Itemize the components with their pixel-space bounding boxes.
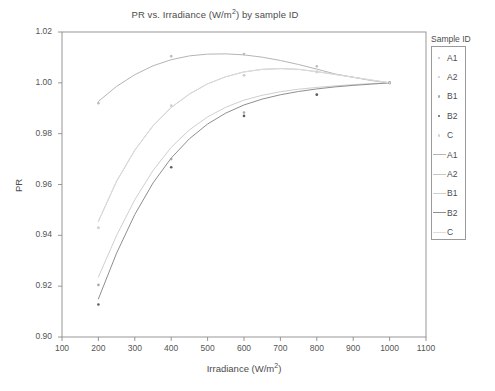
series-line-a1: [98, 54, 389, 102]
legend-entry-line-a1[interactable]: A1: [433, 145, 466, 164]
series-line-a2: [98, 69, 389, 222]
plot-canvas: [0, 0, 495, 391]
dot-icon: [438, 76, 440, 78]
y-tick-label: 0.94: [18, 230, 52, 239]
x-tick-label: 600: [224, 344, 264, 353]
x-tick-label: 400: [151, 344, 191, 353]
y-tick-label: 0.90: [18, 332, 52, 341]
x-tick-label: 200: [78, 344, 118, 353]
legend-title: Sample ID: [431, 34, 471, 44]
line-icon: [433, 232, 446, 233]
legend-entry-label: A2: [446, 169, 457, 179]
data-point-b1: [170, 158, 173, 161]
legend-entry-line-b2[interactable]: B2: [433, 203, 466, 222]
legend-entry-point-b1[interactable]: B1: [433, 87, 466, 106]
legend-line-icon: [433, 207, 446, 219]
data-point-b1: [243, 111, 246, 114]
x-tick-label: 800: [297, 344, 337, 353]
x-axis-label: Irradiance (W/m2): [62, 362, 426, 374]
data-point-b2: [97, 303, 100, 306]
line-icon: [433, 174, 446, 175]
y-tick-label: 0.92: [18, 281, 52, 290]
legend-entry-label: B2: [446, 111, 457, 121]
data-point-a1: [243, 53, 246, 56]
legend-entry-line-c[interactable]: C: [433, 223, 466, 242]
dot-icon: [438, 95, 440, 97]
x-tick-label: 300: [115, 344, 155, 353]
line-icon: [433, 193, 446, 194]
series-line-c: [98, 69, 389, 222]
legend-entry-label: A1: [446, 53, 457, 63]
legend-entry-point-b2[interactable]: B2: [433, 106, 466, 125]
dot-icon: [438, 115, 440, 117]
x-tick-label: 1000: [370, 344, 410, 353]
chart-figure: PR vs. Irradiance (W/m2) by sample ID 0.…: [0, 0, 495, 391]
data-point-b2: [316, 93, 319, 96]
series-points-group: [97, 53, 391, 306]
data-point-a1: [97, 102, 100, 105]
legend-entry-point-c[interactable]: C: [433, 126, 466, 145]
y-tick-label: 1.02: [18, 27, 52, 36]
y-tick-label: 0.98: [18, 129, 52, 138]
legend-entry-label: A1: [446, 150, 457, 160]
y-tick-label: 1.00: [18, 78, 52, 87]
legend-entry-label: A2: [446, 72, 457, 82]
legend-marker-icon: [433, 90, 446, 102]
legend-entry-label: B1: [446, 188, 457, 198]
data-point-c: [316, 71, 319, 74]
line-icon: [433, 212, 446, 213]
x-axis-label-text: Irradiance (W/m: [207, 363, 275, 374]
x-axis-label-tail: ): [278, 363, 281, 374]
x-tick-label: 1100: [406, 344, 446, 353]
data-point-b2: [243, 115, 246, 118]
plot-frame-group: [58, 32, 426, 341]
data-point-c: [170, 104, 173, 107]
legend-line-icon: [433, 168, 446, 180]
legend-entry-label: C: [446, 227, 453, 237]
data-point-a1: [170, 55, 173, 58]
legend-line-icon: [433, 149, 446, 161]
data-point-b2: [170, 166, 173, 169]
line-icon: [433, 154, 446, 155]
series-lines-group: [98, 54, 389, 299]
legend-marker-icon: [433, 71, 446, 83]
x-tick-label: 700: [260, 344, 300, 353]
legend-marker-icon: [433, 52, 446, 64]
legend-line-icon: [433, 187, 446, 199]
legend-entry-label: B1: [446, 91, 457, 101]
legend-marker-icon: [433, 110, 446, 122]
plot-frame: [62, 32, 426, 337]
legend-entry-label: C: [446, 130, 453, 140]
y-axis-label: PR: [13, 156, 24, 216]
legend-entry-point-a2[interactable]: A2: [433, 67, 466, 86]
legend-entry-line-a2[interactable]: A2: [433, 164, 466, 183]
dot-icon: [438, 134, 440, 136]
legend-marker-icon: [433, 129, 446, 141]
legend-entry-line-b1[interactable]: B1: [433, 184, 466, 203]
data-point-b1: [97, 284, 100, 287]
data-point-c: [97, 226, 100, 229]
legend-entry-point-a1[interactable]: A1: [433, 48, 466, 67]
x-tick-label: 900: [333, 344, 373, 353]
legend-line-icon: [433, 226, 446, 238]
data-point-c: [243, 74, 246, 77]
dot-icon: [438, 57, 440, 59]
data-point-a1: [316, 65, 319, 68]
data-point-c: [388, 82, 391, 85]
x-tick-label: 100: [42, 344, 82, 353]
x-tick-label: 500: [188, 344, 228, 353]
legend-entry-label: B2: [446, 208, 457, 218]
